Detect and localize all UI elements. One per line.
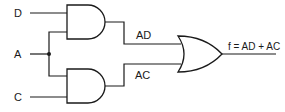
junction-dot (47, 52, 51, 56)
wire-a-branch (49, 32, 67, 76)
input-label-d: D (14, 7, 22, 19)
wire-label-ac: AC (135, 69, 150, 81)
output-label: f = AD + AC (228, 41, 280, 52)
or-gate (178, 36, 222, 72)
wire-label-ad: AD (136, 29, 151, 41)
and-gate-1 (67, 5, 105, 39)
input-label-a: A (14, 48, 22, 60)
and-gate-2 (67, 69, 105, 103)
input-label-c: C (14, 91, 22, 103)
logic-circuit-diagram: D A C AD AC f = AD + AC (0, 0, 285, 112)
